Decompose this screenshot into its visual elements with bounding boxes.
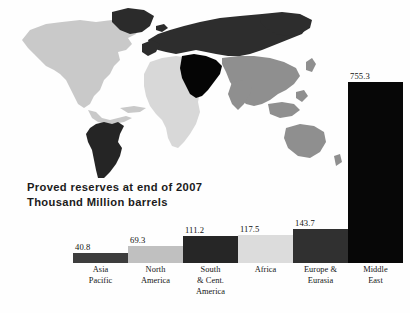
bar-middle-east bbox=[348, 82, 403, 263]
bar-category-label-line: Asia bbox=[73, 265, 128, 276]
bar-value-label: 40.8 bbox=[75, 242, 90, 252]
bar-category-label: Europe &Eurasia bbox=[293, 265, 348, 287]
bar-category-label: South& Cent.America bbox=[183, 265, 238, 297]
bar-north-america bbox=[128, 246, 183, 263]
bar-category-label-line: & Cent. bbox=[183, 276, 238, 287]
bar-south-cent-america bbox=[183, 236, 238, 263]
bar-value-label: 755.3 bbox=[350, 71, 370, 81]
bar-value-label: 111.2 bbox=[185, 225, 204, 235]
bar-category-label: Africa bbox=[238, 265, 293, 276]
bar-category-label-line: America bbox=[128, 276, 183, 287]
bar-category-label-line: Africa bbox=[238, 265, 293, 276]
bar-value-label: 117.5 bbox=[240, 224, 260, 234]
bar-category-label-line: East bbox=[348, 276, 403, 287]
bar-category-label-line: America bbox=[183, 287, 238, 298]
reserves-figure: Proved reserves at end of 2007 Thousand … bbox=[0, 0, 410, 313]
bar-category-label-line: North bbox=[128, 265, 183, 276]
bar-value-label: 143.7 bbox=[295, 218, 315, 228]
bar-category-label-line: Pacific bbox=[73, 276, 128, 287]
bar-category-label-line: Europe & bbox=[293, 265, 348, 276]
bar-africa bbox=[238, 235, 293, 263]
bar-category-label: NorthAmerica bbox=[128, 265, 183, 287]
bar-europe-eurasia bbox=[293, 229, 348, 263]
bar-category-label-line: Middle bbox=[348, 265, 403, 276]
bar-asia-pacific bbox=[73, 253, 128, 263]
bar-category-label: MiddleEast bbox=[348, 265, 403, 287]
bar-category-label: AsiaPacific bbox=[73, 265, 128, 287]
bar-category-label-line: Eurasia bbox=[293, 276, 348, 287]
bar-value-label: 69.3 bbox=[130, 235, 145, 245]
bar-category-label-line: South bbox=[183, 265, 238, 276]
bar-chart: 40.8AsiaPacific69.3NorthAmerica111.2Sout… bbox=[0, 0, 410, 313]
